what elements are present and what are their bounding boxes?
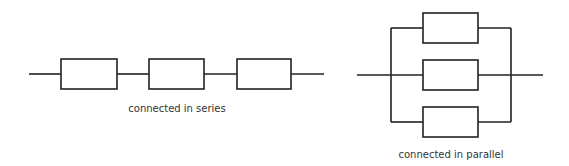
- series-component-2: [149, 59, 204, 89]
- parallel-circuit: connected in parallel: [357, 13, 543, 160]
- series-component-3: [237, 59, 291, 89]
- parallel-component-2: [423, 60, 478, 90]
- series-circuit: connected in series: [29, 59, 324, 114]
- series-component-1: [61, 59, 117, 89]
- parallel-caption: connected in parallel: [398, 149, 503, 160]
- parallel-component-1: [423, 13, 478, 43]
- circuit-diagram: connected in series connected in paralle…: [0, 0, 569, 166]
- series-caption: connected in series: [128, 103, 225, 114]
- parallel-component-3: [423, 107, 478, 137]
